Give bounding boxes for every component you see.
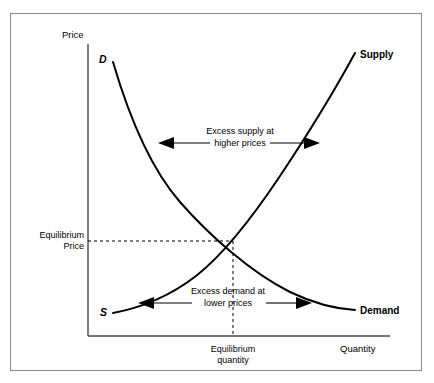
supply-curve-letter: S — [100, 306, 107, 318]
excess-demand-text-line1: Excess demand at — [191, 286, 266, 296]
excess-demand-text-line2: lower prices — [204, 298, 253, 308]
equilibrium-price-label-line1: Equilibrium — [39, 230, 84, 240]
demand-curve-label: Demand — [360, 305, 399, 316]
excess-demand-left-arrowhead — [138, 297, 154, 309]
demand-curve — [113, 62, 355, 310]
supply-demand-figure: Price Quantity D S Supply Demand Equilib… — [0, 0, 434, 383]
supply-curve — [113, 53, 355, 313]
chart-canvas: Price Quantity D S Supply Demand Equilib… — [0, 0, 434, 383]
x-axis-title: Quantity — [340, 343, 376, 354]
excess-supply-left-arrowhead — [158, 137, 174, 149]
equilibrium-quantity-label-line2: quantity — [217, 355, 249, 365]
equilibrium-quantity-label-line1: Equilibrium — [211, 344, 256, 354]
equilibrium-price-label-line2: Price — [63, 241, 84, 251]
supply-curve-label: Supply — [360, 49, 394, 60]
excess-supply-text-line2: higher prices — [214, 138, 266, 148]
excess-supply-right-arrowhead — [304, 137, 320, 149]
y-axis-title: Price — [62, 29, 84, 40]
excess-supply-text-line1: Excess supply at — [206, 126, 274, 136]
demand-curve-letter: D — [99, 53, 107, 65]
